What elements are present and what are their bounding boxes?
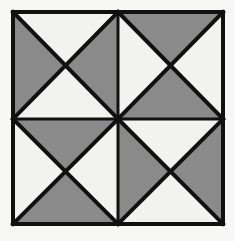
quilt-block-diagram bbox=[0, 0, 235, 241]
figure-container bbox=[0, 0, 235, 241]
lines-layer bbox=[13, 12, 223, 224]
